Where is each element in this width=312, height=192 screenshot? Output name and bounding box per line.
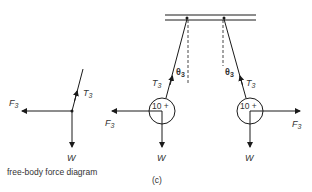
fbd-tension-label: T3 (83, 88, 93, 99)
left-tension-label: T3 (152, 78, 162, 89)
left-angle-label: θ3 (176, 67, 185, 78)
tension-arrow-icon (75, 91, 78, 101)
right-string (224, 19, 246, 98)
pendulum-force-diagram: T3 F3 W free-body force diagram 10 + θ3 … (0, 0, 312, 192)
right-mass-label: 10 + (240, 101, 257, 111)
ceiling-support (165, 15, 256, 20)
right-pendulum: 10 + θ3 T3 F3 W (223, 17, 302, 164)
left-pendulum: 10 + θ3 T3 F3 W (105, 17, 189, 164)
right-force-label: F3 (292, 119, 302, 130)
left-string (166, 19, 187, 98)
right-tension-label: T3 (246, 78, 256, 89)
figure-label: (c) (152, 175, 162, 185)
right-angle-label: θ3 (225, 67, 234, 78)
fbd-weight-label: W (67, 153, 77, 163)
left-weight-label: W (157, 153, 167, 163)
left-mass-label: 10 + (152, 101, 169, 111)
right-weight-label: W (245, 153, 255, 163)
junction-point (71, 110, 74, 113)
tension-line (72, 69, 83, 111)
right-tension-arrow-icon (240, 76, 243, 85)
free-body-diagram: T3 F3 W free-body force diagram (7, 69, 97, 177)
fbd-force-label: F3 (9, 98, 19, 109)
left-force-label: F3 (105, 118, 115, 129)
fbd-caption: free-body force diagram (7, 167, 97, 177)
